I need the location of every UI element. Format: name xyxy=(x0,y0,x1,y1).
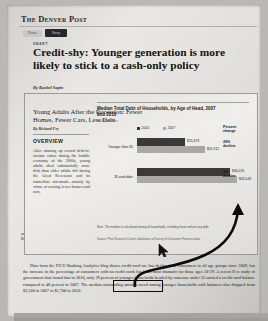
masthead-divider xyxy=(19,26,257,27)
percent-change-younger: 29% decline xyxy=(223,140,249,148)
tab-story[interactable]: Story xyxy=(45,29,67,37)
percent-change-word-older: decline xyxy=(223,174,249,178)
overview-heading: OVERVIEW xyxy=(33,138,63,144)
bar-older-2010: $30,070 xyxy=(137,168,230,176)
chart-note: Note: The median is calculated among all… xyxy=(97,226,247,230)
scanned-webpage-screenshot: The Denver Post Home Story SMART Credit-… xyxy=(0,0,268,321)
highlight-box-annotation xyxy=(113,280,163,292)
tab-home[interactable]: Home xyxy=(23,30,42,37)
chart: Median Total Debt of Households, by Age … xyxy=(97,102,249,248)
chart-subtitle: in 2011 dollars xyxy=(97,119,117,123)
chart-source: Source: Pew Research Center tabulations … xyxy=(97,238,247,242)
overview-divider xyxy=(33,134,89,135)
category-label-older: 35 and older xyxy=(97,175,133,179)
report-byline: By Richard Fry xyxy=(33,126,59,131)
percent-change-header: Percent change xyxy=(223,125,249,134)
nav-tabs: Home Story xyxy=(23,29,67,37)
chart-title: Median Total Debt of Households, by Age … xyxy=(97,106,221,117)
article-byline: By Rachel Sapin xyxy=(33,85,63,90)
chart-plot-area: Younger than 35 $15,473 $21,912 29% decl… xyxy=(97,134,249,222)
page-title: Credit-shy: Younger generation is more l… xyxy=(33,46,238,71)
percent-change-older: 8% decline xyxy=(223,170,249,178)
legend-label-2007: 2007 xyxy=(168,126,176,130)
legend-swatch-2010 xyxy=(137,127,140,130)
bar-younger-2010: $15,473 xyxy=(137,138,185,146)
bar-younger-2007: $21,912 xyxy=(137,146,205,154)
bar-older-2007: $32,543 xyxy=(137,176,237,184)
legend-item-2007: 2007 xyxy=(163,126,175,130)
legend-item-2010: 2010 xyxy=(137,126,149,130)
paper-sheet: The Denver Post Home Story SMART Credit-… xyxy=(7,5,261,317)
bar-value-younger-2010: $15,473 xyxy=(187,139,199,143)
bars-younger: $15,473 $21,912 xyxy=(137,138,205,153)
overview-body: After running up record debt-to-income r… xyxy=(33,148,90,194)
newspaper-masthead: The Denver Post xyxy=(21,14,87,24)
legend-label-2010: 2010 xyxy=(142,126,150,130)
bar-value-younger-2007: $21,912 xyxy=(207,147,219,151)
percent-change-word-younger: decline xyxy=(223,144,249,148)
chart-top-rule xyxy=(97,102,249,103)
legend-swatch-2007 xyxy=(163,127,166,130)
category-label-younger: Younger than 35 xyxy=(97,145,133,149)
mouse-cursor-icon xyxy=(158,243,170,257)
embedded-pew-report-card[interactable]: Young Adults After the Recession: Fewer … xyxy=(24,93,258,255)
chart-legend: 2010 2007 xyxy=(137,126,175,130)
bars-older: $30,070 $32,543 xyxy=(137,168,237,183)
